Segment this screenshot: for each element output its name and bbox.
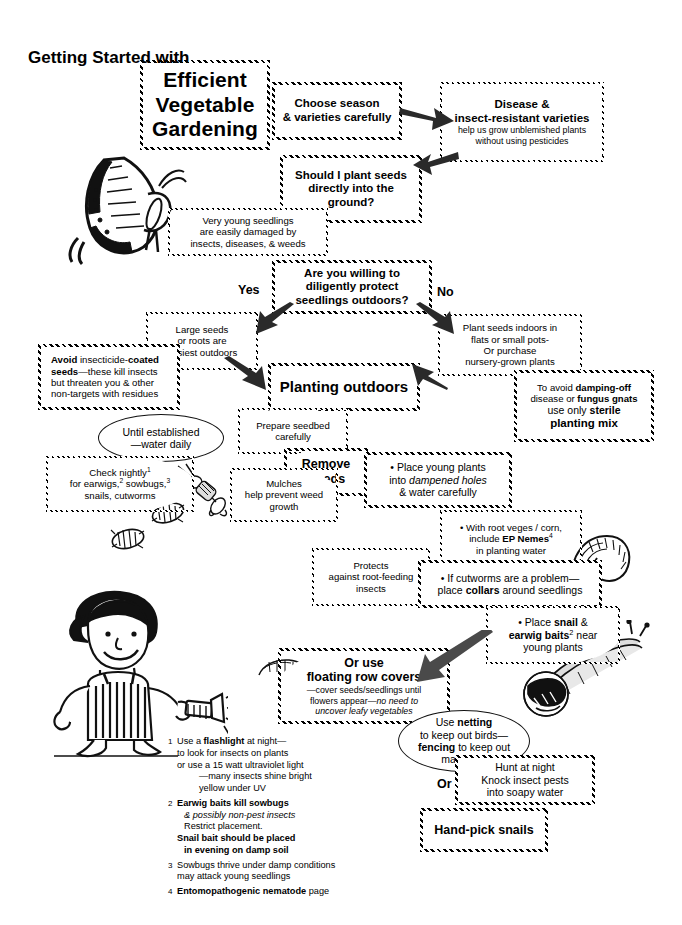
footnote-3-body: Sowbugs thrive under damp conditions may… bbox=[177, 860, 335, 884]
netting-line-1: Use netting bbox=[436, 716, 493, 728]
plant-question-line-1: Should I plant seeds bbox=[295, 169, 407, 183]
hand-pick-label: Hand-pick snails bbox=[434, 823, 533, 838]
plant-indoors-line-2: flats or small pots- bbox=[471, 334, 549, 345]
footnote-1-line-2: to look for insects on plants bbox=[177, 748, 312, 760]
infographic-page: Getting Started with Efficient Vegetable… bbox=[0, 0, 682, 925]
mulches-line-3: growth bbox=[270, 501, 299, 512]
large-seeds-line-2: or roots are bbox=[177, 335, 226, 346]
footnote-2-line-2: & possibly non-pest insects bbox=[177, 810, 295, 822]
planting-outdoors-label: Planting outdoors bbox=[280, 378, 408, 396]
rowcover-line-2: flowers appear—no need to bbox=[310, 696, 418, 706]
mulches-line-2: help prevent weed bbox=[245, 489, 323, 500]
check-line-2: for earwigs,2 sowbugs,3 bbox=[70, 478, 170, 489]
arrow-yes-branch bbox=[252, 302, 296, 342]
node-young-seedlings: Very young seedlings are easily damaged … bbox=[168, 208, 328, 256]
resistant-head-2: insect-resistant varieties bbox=[455, 112, 590, 126]
node-snail-earwig-baits: • Place snail & earwig baits2 near young… bbox=[486, 606, 620, 664]
node-avoid-coated-seeds: Avoid insecticide-coated seeds—these kil… bbox=[38, 344, 180, 410]
footnote-4-line-1: Entomopathogenic nematode page bbox=[177, 886, 329, 898]
footnote-2-line-4: Snail bait should be placed bbox=[177, 833, 295, 845]
avoid-line-1: Avoid insecticide-coated bbox=[51, 354, 159, 365]
protects-line-1: Protects bbox=[353, 560, 388, 571]
arrow-indoors-to-planting bbox=[408, 360, 450, 392]
node-plant-indoors: Plant seeds indoors in flats or small po… bbox=[438, 314, 582, 376]
footnote-1: 1 Use a flashlight at night— to look for… bbox=[168, 736, 418, 795]
rowcover-head-2: floating row covers bbox=[307, 670, 422, 685]
footnote-1-body: Use a flashlight at night— to look for i… bbox=[177, 736, 312, 795]
node-hunt-at-night: Hunt at night Knock insect pests into so… bbox=[455, 755, 595, 805]
footnote-4-number: 4 bbox=[168, 886, 177, 896]
resistant-head-1: Disease & bbox=[495, 98, 550, 112]
node-prepare-seedbed: Prepare seedbed carefully bbox=[238, 408, 348, 454]
node-resistant-varieties: Disease & insect-resistant varieties hel… bbox=[440, 82, 604, 162]
prepare-line-2: carefully bbox=[275, 431, 311, 442]
node-check-nightly: Check nightly1 for earwigs,2 sowbugs,3 s… bbox=[46, 456, 194, 512]
node-planting-outdoors: Planting outdoors bbox=[268, 363, 420, 411]
title-line-3: Gardening bbox=[152, 117, 258, 142]
footnote-4-body: Entomopathogenic nematode page bbox=[177, 886, 329, 898]
sterile-line-3: use only sterile bbox=[548, 404, 621, 416]
choose-season-line-1: Choose season bbox=[295, 97, 380, 111]
large-seeds-line-1: Large seeds bbox=[176, 324, 229, 335]
protects-line-3: insects bbox=[356, 583, 386, 594]
netting-line-2: to keep out birds— bbox=[420, 729, 508, 741]
footnote-2-line-3: Restrict placement. bbox=[177, 821, 295, 833]
collars-line-2: place collars around seedlings bbox=[438, 584, 583, 596]
sterile-line-2: disease or fungus gnats bbox=[530, 393, 637, 404]
node-sterile-mix: To avoid damping-off disease or fungus g… bbox=[514, 370, 654, 442]
rowcover-line-1: —cover seeds/seedlings until bbox=[307, 685, 421, 695]
willing-line-2: diligently protect bbox=[306, 280, 399, 294]
kicker-text: Getting Started with bbox=[28, 48, 190, 68]
footnote-2-body: Earwig baits kill sowbugs & possibly non… bbox=[177, 798, 295, 857]
plant-indoors-line-3: Or purchase bbox=[484, 345, 537, 356]
resistant-line-1: help us grow unblemished plants bbox=[458, 125, 586, 135]
hunt-line-3: into soapy water bbox=[487, 786, 563, 798]
check-line-3: snails, cutworms bbox=[85, 490, 156, 501]
young-plants-line-1: • Place young plants bbox=[390, 461, 485, 473]
nemes-line-3: in planting water bbox=[476, 545, 546, 556]
node-cutworm-collars: • If cutworms are a problem— place colla… bbox=[418, 560, 602, 608]
young-seedlings-line-1: Very young seedlings bbox=[202, 215, 293, 226]
footnote-1-line-3: or use a 15 watt ultraviolet light bbox=[177, 760, 312, 772]
hunt-line-2: Knock insect pests bbox=[481, 774, 569, 786]
node-protects-roots: Protects against root-feeding insects bbox=[312, 548, 430, 606]
until-line-2: —water daily bbox=[131, 438, 192, 450]
label-or: Or bbox=[437, 777, 452, 791]
baits-line-3: young plants bbox=[523, 641, 583, 653]
netting-line-3: fencing to keep out bbox=[418, 741, 510, 753]
footnotes-block: 1 Use a flashlight at night— to look for… bbox=[168, 736, 418, 901]
footnote-2-line-1: Earwig baits kill sowbugs bbox=[177, 798, 295, 810]
arrow-baits-to-row-covers bbox=[415, 630, 495, 690]
young-plants-line-3: & water carefully bbox=[399, 486, 477, 498]
footnote-4: 4 Entomopathogenic nematode page bbox=[168, 886, 418, 898]
rowcover-head-1: Or use bbox=[344, 656, 384, 671]
footnote-3-line-1: Sowbugs thrive under damp conditions bbox=[177, 860, 335, 872]
footnote-2-line-5: in evening on damp soil bbox=[177, 845, 295, 857]
footnote-1-line-5: yellow under UV bbox=[177, 783, 312, 795]
until-line-1: Until established bbox=[122, 426, 199, 438]
willing-line-1: Are you willing to bbox=[304, 267, 400, 281]
label-yes: Yes bbox=[238, 283, 260, 297]
label-no: No bbox=[437, 285, 454, 299]
footnote-2: 2 Earwig baits kill sowbugs & possibly n… bbox=[168, 798, 418, 857]
footnote-2-number: 2 bbox=[168, 798, 177, 808]
arrow-resistant-to-plant-question bbox=[412, 150, 460, 178]
plant-indoors-line-1: Plant seeds indoors in bbox=[463, 322, 557, 333]
nemes-line-1: • With root veges / corn, bbox=[460, 522, 562, 533]
young-seedlings-line-2: are easily damaged by bbox=[200, 226, 297, 237]
baits-line-1: • Place snail & bbox=[518, 616, 588, 628]
footnote-3: 3 Sowbugs thrive under damp conditions m… bbox=[168, 860, 418, 884]
plant-indoors-line-4: nursery-grown plants bbox=[465, 356, 555, 367]
gardener-illustration bbox=[48, 588, 228, 760]
footnote-3-line-2: may attack young seedlings bbox=[177, 871, 335, 883]
protects-line-2: against root-feeding bbox=[329, 571, 414, 582]
nemes-line-2: include EP Nemes4 bbox=[469, 533, 553, 544]
footnote-1-line-1: Use a flashlight at night— bbox=[177, 736, 312, 748]
footnote-3-number: 3 bbox=[168, 860, 177, 870]
arrow-choose-to-resistant bbox=[398, 102, 456, 132]
mulches-line-1: Mulches bbox=[266, 478, 302, 489]
avoid-line-2: seeds—these kill insects bbox=[51, 366, 158, 377]
node-hand-pick-snails: Hand-pick snails bbox=[420, 808, 548, 852]
avoid-line-3: but threaten you & other bbox=[51, 377, 154, 388]
node-mulches: Mulches help prevent weed growth bbox=[230, 468, 338, 522]
